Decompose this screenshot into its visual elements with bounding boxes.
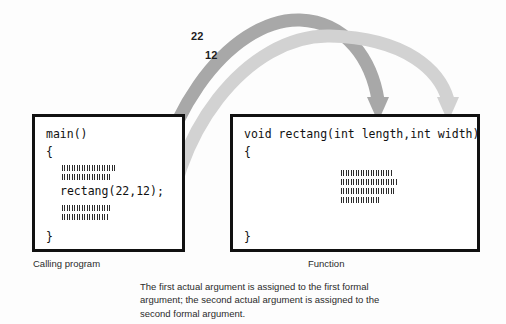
argument-value-label-second: 12 [205, 49, 218, 61]
calling-program-code-line: { [46, 146, 53, 158]
function-signature: void rectang(int length,int width) [244, 128, 479, 140]
explanation-text: The first actual argument is assigned to… [140, 280, 380, 320]
calling-program-code-line: } [46, 231, 53, 243]
argument-passing-diagram: 22 12 main() { rectang(22,12); } void re… [0, 0, 506, 324]
calling-program-code-line: main() [46, 128, 88, 140]
argument-value-label-first: 22 [191, 30, 204, 42]
calling-program-code-box: main() { rectang(22,12); } [32, 114, 185, 252]
calling-program-caption: Calling program [33, 258, 100, 269]
function-caption: Function [308, 258, 344, 269]
illegible-code-lines [62, 165, 115, 183]
function-code-line: { [244, 146, 251, 158]
function-code-box: void rectang(int length,int width) { } [230, 114, 480, 252]
calling-program-function-call: rectang(22,12); [60, 185, 164, 197]
illegible-code-lines [62, 205, 112, 223]
function-code-line: } [244, 231, 251, 243]
illegible-code-lines [341, 170, 397, 206]
